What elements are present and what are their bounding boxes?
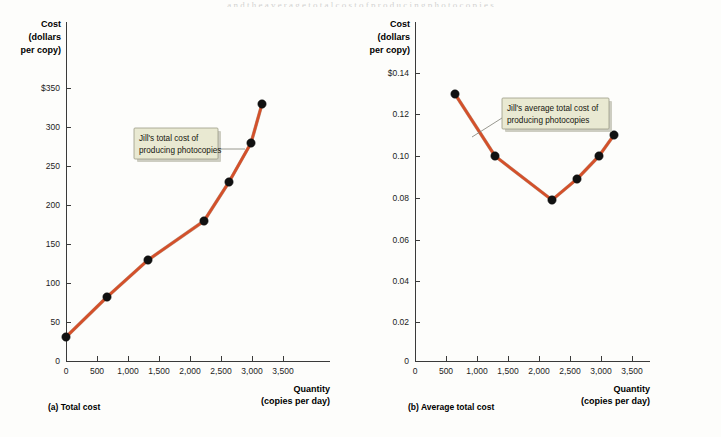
total-cost-chart: 0 50 100 150 200 250 300 $350	[0, 0, 361, 437]
x-axis-title: Quantity (copies per day)	[261, 384, 330, 406]
data-point	[247, 139, 255, 147]
x-tick-label: 1,500	[497, 366, 519, 376]
x-tick-label: 2,500	[559, 366, 581, 376]
y-tick-label: 250	[46, 161, 60, 171]
svg-text:(copies per day): (copies per day)	[581, 396, 650, 406]
x-tick-label: 1,500	[148, 366, 170, 376]
y-tick-label: 0.10	[392, 151, 409, 161]
svg-text:Quantity: Quantity	[613, 384, 650, 394]
x-tick-label: 500	[90, 366, 104, 376]
axis-lines	[415, 22, 650, 361]
x-axis-title: Quantity (copies per day)	[581, 384, 650, 406]
svg-text:(copies per day): (copies per day)	[261, 396, 330, 406]
y-tick-label: $350	[41, 83, 60, 93]
data-point	[200, 217, 208, 225]
x-tick-label: 0	[64, 366, 69, 376]
data-point	[144, 256, 152, 264]
data-point	[258, 100, 266, 108]
data-point	[610, 131, 618, 139]
y-tick-label: 150	[46, 239, 60, 249]
svg-text:Quantity: Quantity	[293, 384, 330, 394]
x-tick-label: 1,000	[117, 366, 139, 376]
y-axis-title: Cost (dollars per copy)	[369, 19, 410, 55]
x-tick-label: 3,000	[241, 366, 263, 376]
svg-text:per copy): per copy)	[369, 45, 410, 55]
figure-page: a n d t h e a v e r a g e t o t a l c o …	[0, 0, 721, 437]
panel-total-cost: 0 50 100 150 200 250 300 $350	[0, 0, 360, 437]
x-axis-ticks	[66, 356, 283, 361]
y-tick-label: 0	[55, 356, 60, 366]
y-tick-label: 0.04	[392, 276, 409, 286]
y-tick-label: $0.14	[388, 68, 410, 78]
data-point	[548, 196, 556, 204]
y-tick-label: 0.02	[392, 317, 409, 327]
callout-line-2: producing photocopies	[507, 116, 589, 125]
x-tick-label: 1,000	[466, 366, 488, 376]
svg-text:(dollars: (dollars	[28, 32, 61, 42]
average-total-cost-chart: 0 0.02 0.04 0.06 0.08 0.10 0.12 $0.14	[360, 0, 721, 437]
panel-caption: (b) Average total cost	[408, 402, 494, 412]
svg-text:per copy): per copy)	[20, 45, 61, 55]
svg-text:Cost: Cost	[41, 19, 61, 29]
y-axis-tick-labels: 0 50 100 150 200 250 300 $350	[41, 83, 60, 366]
data-point	[451, 90, 459, 98]
data-point	[573, 175, 581, 183]
x-tick-label: 2,000	[528, 366, 550, 376]
data-point	[225, 178, 233, 186]
axis-lines	[66, 22, 330, 361]
y-tick-label: 0.08	[392, 193, 409, 203]
panel-caption: (a) Total cost	[48, 402, 100, 412]
data-point	[103, 293, 111, 301]
y-axis-title: Cost (dollars per copy)	[20, 19, 61, 55]
panel-average-total-cost: 0 0.02 0.04 0.06 0.08 0.10 0.12 $0.14	[360, 0, 720, 437]
callout-total-cost: Jill's total cost of producing photocopi…	[134, 128, 221, 162]
y-axis-ticks	[415, 73, 420, 361]
x-axis-ticks	[415, 356, 632, 361]
callout-average-total-cost: Jill's average total cost of producing p…	[502, 98, 612, 132]
svg-text:(dollars: (dollars	[377, 32, 410, 42]
x-axis-tick-labels: 0 500 1,000 1,500 2,000 2,500 3,000 3,50…	[413, 366, 643, 376]
callout-line-2: producing photocopies	[139, 146, 221, 155]
callout-line-1: Jill's total cost of	[139, 134, 199, 143]
y-tick-label: 200	[46, 200, 60, 210]
data-point	[491, 152, 499, 160]
data-point	[595, 152, 603, 160]
x-tick-label: 0	[413, 366, 418, 376]
y-tick-label: 300	[46, 122, 60, 132]
svg-text:Cost: Cost	[390, 19, 410, 29]
x-tick-label: 3,000	[590, 366, 612, 376]
x-tick-label: 2,500	[210, 366, 232, 376]
y-tick-label: 0.06	[392, 235, 409, 245]
y-axis-tick-labels: 0 0.02 0.04 0.06 0.08 0.10 0.12 $0.14	[388, 68, 410, 366]
x-tick-label: 2,000	[179, 366, 201, 376]
y-tick-label: 0	[404, 356, 409, 366]
y-tick-label: 0.12	[392, 109, 409, 119]
data-point	[62, 333, 70, 341]
x-tick-label: 3,500	[272, 366, 294, 376]
x-axis-tick-labels: 0 500 1,000 1,500 2,000 2,500 3,000 3,50…	[64, 366, 294, 376]
x-tick-label: 3,500	[621, 366, 643, 376]
x-tick-label: 500	[439, 366, 453, 376]
y-axis-ticks	[66, 88, 71, 361]
y-tick-label: 100	[46, 278, 60, 288]
y-tick-label: 50	[51, 317, 61, 327]
callout-line-1: Jill's average total cost of	[507, 104, 599, 113]
